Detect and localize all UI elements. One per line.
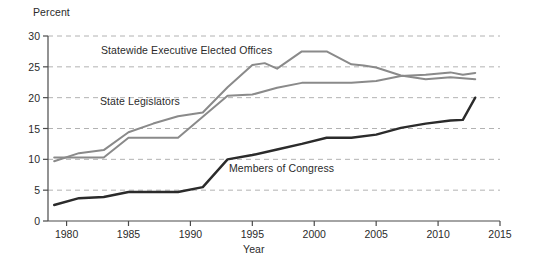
series-label-members-of-congress: Members of Congress <box>229 162 334 174</box>
chart-background <box>0 0 533 264</box>
y-tick-label: 0 <box>34 215 40 227</box>
y-axis-title: Percent <box>33 6 70 18</box>
series-label-statewide-executive-elected-offices: Statewide Executive Elected Offices <box>101 44 272 56</box>
y-tick-label: 15 <box>28 123 40 135</box>
chart-figure: 051015202530 198019851990199520002005201… <box>0 0 533 264</box>
series-label-state-legislators: State Legislators <box>100 95 180 107</box>
x-tick-label: 1980 <box>55 228 79 240</box>
x-tick-label: 2015 <box>488 228 512 240</box>
x-tick-label: 2005 <box>364 228 388 240</box>
y-tick-label: 5 <box>34 184 40 196</box>
x-tick-label: 1995 <box>241 228 265 240</box>
x-tick-label: 1990 <box>179 228 203 240</box>
x-tick-label: 2000 <box>303 228 327 240</box>
x-tick-label: 1985 <box>117 228 141 240</box>
y-tick-label: 20 <box>28 92 40 104</box>
y-tick-label: 25 <box>28 61 40 73</box>
y-tick-label: 30 <box>28 30 40 42</box>
y-tick-label: 10 <box>28 153 40 165</box>
x-axis-title: Year <box>243 243 265 255</box>
x-tick-label: 2010 <box>426 228 450 240</box>
